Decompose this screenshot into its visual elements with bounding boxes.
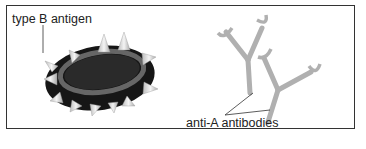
antibody-2 xyxy=(264,58,311,122)
antibody-1 xyxy=(226,28,262,93)
antigen-label: type B antigen xyxy=(12,12,92,26)
antibodies-label: anti-A antibodies xyxy=(186,116,278,130)
antibody-leader-lines xyxy=(225,93,270,115)
